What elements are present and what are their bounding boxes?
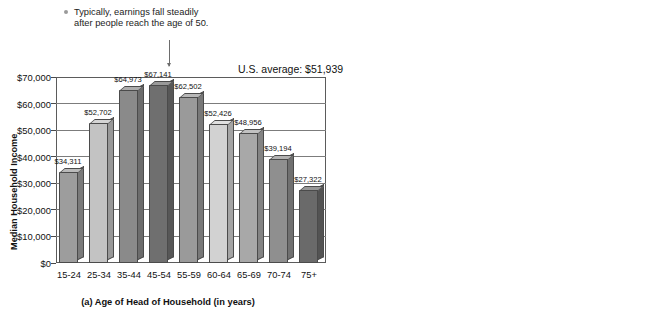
- bar-value-label: $52,426: [204, 109, 231, 118]
- bar: $52,702: [89, 123, 108, 263]
- x-axis-tick-label: 70-74: [267, 270, 291, 281]
- y-axis-tick: [51, 77, 56, 78]
- x-axis-tick-label: 75+: [301, 270, 317, 281]
- bar: $34,311: [59, 172, 78, 263]
- y-axis-tick-label: $40,000: [17, 151, 51, 162]
- bar: $62,502: [179, 97, 198, 263]
- bar-value-label: $62,502: [174, 82, 201, 91]
- bar: $52,426: [209, 124, 228, 263]
- bar-value-label: $27,322: [294, 175, 321, 184]
- y-axis-tick-label: $70,000: [17, 72, 51, 83]
- bar: $67,141: [149, 85, 168, 263]
- bar-value-label: $64,973: [114, 75, 141, 84]
- y-axis-tick-label: $20,000: [17, 204, 51, 215]
- y-axis-tick: [51, 103, 56, 104]
- bar-side: [318, 184, 324, 260]
- y-axis-tick-label: $50,000: [17, 125, 51, 136]
- bar-face: [179, 97, 198, 263]
- annotation-a: Typically, earnings fall steadily after …: [64, 7, 314, 30]
- bar-face: [119, 90, 138, 263]
- x-axis-tick-label: 25-34: [87, 270, 111, 281]
- leader-line-a: [169, 40, 170, 66]
- bar-face: [89, 123, 108, 263]
- chart-panel-b: A generation ago, it was the elderly who…: [336, 0, 672, 317]
- y-axis-tick: [51, 209, 56, 210]
- x-axis-tick-label: 60-64: [207, 270, 231, 281]
- bar-side: [168, 79, 174, 260]
- y-axis-tick-label: $30,000: [17, 178, 51, 189]
- bar-side: [108, 117, 114, 260]
- x-axis-tick-label: 65-69: [237, 270, 261, 281]
- y-axis-tick: [51, 263, 56, 264]
- bar-value-label: $48,956: [234, 118, 261, 127]
- x-axis-tick-label: 55-59: [177, 270, 201, 281]
- bar-side: [228, 118, 234, 260]
- bar-value-label: $52,702: [84, 108, 111, 117]
- y-axis-tick: [51, 130, 56, 131]
- bar: $39,194: [269, 159, 288, 263]
- y-axis-tick: [51, 236, 56, 237]
- us-average-label-a: U.S. average: $51,939: [238, 63, 343, 75]
- bar-side: [258, 127, 264, 260]
- x-axis-tick-label: 35-44: [117, 270, 141, 281]
- chart-panel-a: Typically, earnings fall steadily after …: [0, 0, 336, 317]
- bar-face: [239, 133, 258, 263]
- bar-face: [299, 190, 318, 263]
- bar: $27,322: [299, 190, 318, 263]
- annotation-a-text: Typically, earnings fall steadily after …: [74, 7, 314, 30]
- y-axis-tick-label: $0: [41, 258, 51, 269]
- y-axis-tick-label: $10,000: [17, 231, 51, 242]
- y-axis-tick: [51, 183, 56, 184]
- bar-side: [288, 153, 294, 260]
- bar-side: [198, 91, 204, 260]
- bar-face: [59, 172, 78, 263]
- x-axis-title-a: (a) Age of Head of Household (in years): [0, 297, 336, 307]
- bar: $48,956: [239, 133, 258, 263]
- bullet-icon: [64, 10, 68, 14]
- bar-value-label: $34,311: [55, 157, 82, 166]
- bar: $64,973: [119, 90, 138, 263]
- bar-face: [149, 85, 168, 263]
- plot-area-a: $0$10,000$20,000$30,000$40,000$50,000$60…: [56, 77, 326, 263]
- bar-face: [209, 124, 228, 263]
- figure-root: Typically, earnings fall steadily after …: [0, 0, 672, 317]
- y-axis-tick-label: $60,000: [17, 98, 51, 109]
- bar-side: [78, 166, 84, 260]
- x-axis-tick-label: 45-54: [147, 270, 171, 281]
- x-axis-tick-label: 15-24: [57, 270, 81, 281]
- bar-side: [138, 84, 144, 260]
- bar-value-label: $67,141: [144, 70, 171, 79]
- bar-value-label: $39,194: [264, 144, 291, 153]
- bar-face: [269, 159, 288, 263]
